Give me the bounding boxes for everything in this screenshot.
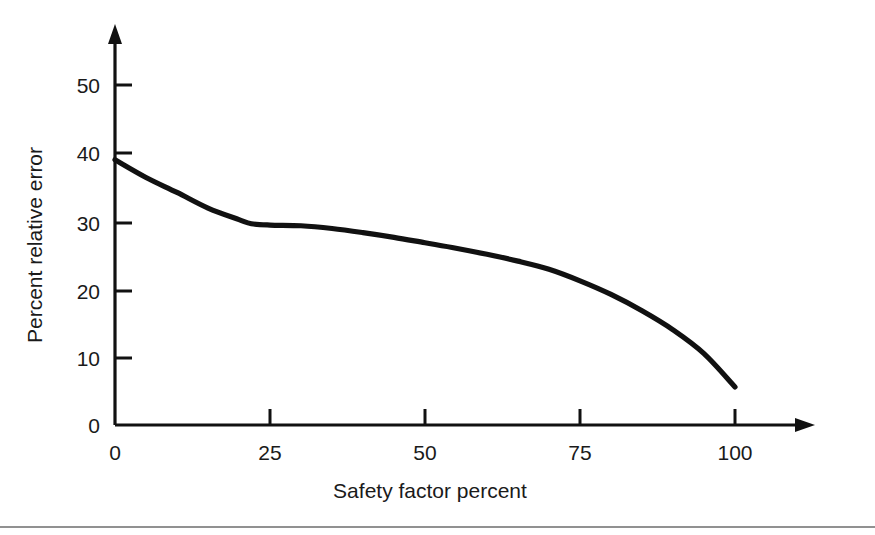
y-tick-label-40: 40 xyxy=(77,142,100,165)
x-axis-arrowhead xyxy=(795,418,815,432)
x-tick-label-25: 25 xyxy=(258,441,281,464)
x-tick-marks xyxy=(270,409,735,425)
x-axis xyxy=(115,418,815,432)
y-axis-arrowhead xyxy=(108,24,122,44)
data-series-line xyxy=(115,160,735,387)
y-tick-label-0: 0 xyxy=(88,414,100,437)
y-tick-label-50: 50 xyxy=(77,74,100,97)
figure-container: 0 10 20 30 40 50 0 25 50 75 100 Percent … xyxy=(0,0,875,535)
x-tick-labels: 0 25 50 75 100 xyxy=(109,441,752,464)
y-tick-labels: 0 10 20 30 40 50 xyxy=(77,74,100,437)
y-tick-marks xyxy=(115,85,132,358)
y-tick-label-10: 10 xyxy=(77,347,100,370)
y-tick-label-20: 20 xyxy=(77,280,100,303)
x-axis-title: Safety factor percent xyxy=(333,479,527,502)
chart-canvas: 0 10 20 30 40 50 0 25 50 75 100 Percent … xyxy=(0,0,875,535)
x-tick-label-100: 100 xyxy=(717,441,752,464)
y-tick-label-30: 30 xyxy=(77,212,100,235)
x-tick-label-0: 0 xyxy=(109,441,121,464)
x-tick-label-75: 75 xyxy=(568,441,591,464)
y-axis-title: Percent relative error xyxy=(23,147,46,343)
x-tick-label-50: 50 xyxy=(413,441,436,464)
